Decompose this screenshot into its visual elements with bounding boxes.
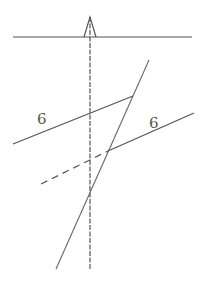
label-upper-six: 6 (37, 110, 47, 128)
geometry-diagram: 6 6 (0, 0, 209, 286)
lower-line-dashed-extension (41, 151, 108, 184)
label-lower-six: 6 (149, 114, 159, 132)
steep-line (56, 60, 149, 269)
